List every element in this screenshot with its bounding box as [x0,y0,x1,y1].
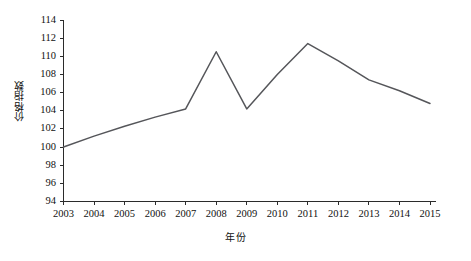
x-tick-label: 2004 [77,209,111,220]
axes [64,20,437,202]
x-tick-label: 2007 [169,209,203,220]
y-tick-label: 106 [30,87,56,98]
y-tick-label: 110 [30,51,56,62]
x-tick-label: 2010 [260,209,294,220]
data-series [64,44,431,147]
x-tick-label: 2005 [108,209,142,220]
x-tick-label: 2012 [321,209,355,220]
x-tick-label: 2013 [352,209,386,220]
y-tick-label: 94 [30,196,56,207]
x-tick-label: 2003 [47,209,81,220]
y-tick-label: 102 [30,123,56,134]
y-tick-label: 112 [30,33,56,44]
line-chart: 价格指数 年份 949698100102104106108110112114 2… [0,0,471,261]
y-tick-label: 108 [30,69,56,80]
y-tick-label: 98 [30,160,56,171]
y-tick-label: 96 [30,178,56,189]
x-tick-label: 2015 [413,209,447,220]
x-tick-label: 2011 [291,209,325,220]
series-line-price-index [64,44,431,147]
y-tick-label: 104 [30,105,56,116]
plot-area [0,0,471,261]
x-tick-label: 2008 [199,209,233,220]
y-tick-label: 100 [30,142,56,153]
x-tick-label: 2014 [382,209,416,220]
y-tick-label: 114 [30,15,56,26]
x-tick-label: 2006 [138,209,172,220]
x-tick-label: 2009 [230,209,264,220]
